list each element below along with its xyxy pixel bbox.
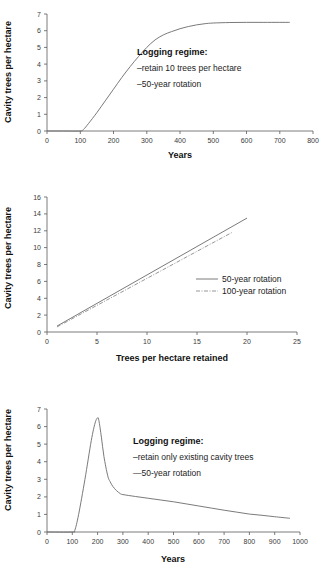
x-tick-label: 500 (207, 137, 219, 144)
annotation-heading: Logging regime: (133, 436, 204, 446)
data-series-line (47, 22, 290, 131)
y-tick-label: 1 (37, 111, 41, 118)
x-ticks: 0 100 200 300 400 500 600 700 800 900 10… (45, 532, 308, 545)
y-axis-title: Cavity trees per hectare (3, 21, 13, 123)
y-tick-label: 0 (37, 329, 41, 336)
chart-panel-1: Cavity trees per hectare 0 1 2 3 4 5 6 7 (0, 0, 323, 175)
x-ticks: 0 5 10 15 20 25 (45, 332, 301, 345)
panel-2-svg: Cavity trees per hectare 0 2 4 6 8 10 12… (0, 175, 323, 370)
annotation-block: Logging regime: –retain only existing ca… (133, 436, 253, 478)
y-axis-title: Cavity trees per hectare (3, 207, 13, 309)
x-tick-label: 200 (92, 538, 104, 545)
y-ticks: 0 2 4 6 8 10 12 14 16 (33, 194, 47, 336)
y-tick-label: 7 (37, 406, 41, 413)
x-tick-label: 700 (274, 137, 286, 144)
y-tick-label: 2 (37, 94, 41, 101)
y-tick-label: 3 (37, 77, 41, 84)
y-tick-label: 7 (37, 11, 41, 18)
panel-3-svg: Cavity trees per hectare 0 1 2 3 4 5 6 7 (0, 370, 323, 575)
y-tick-label: 2 (37, 312, 41, 319)
y-tick-label: 4 (37, 61, 41, 68)
y-tick-label: 2 (37, 493, 41, 500)
x-tick-label: 500 (168, 538, 180, 545)
annotation-heading: Logging regime: (137, 47, 208, 57)
y-tick-label: 4 (37, 295, 41, 302)
y-tick-label: 1 (37, 511, 41, 518)
y-ticks: 0 1 2 3 4 5 6 7 (37, 11, 47, 135)
x-tick-label: 0 (45, 538, 49, 545)
y-tick-label: 6 (37, 278, 41, 285)
y-tick-label: 0 (37, 128, 41, 135)
x-tick-label: 0 (45, 338, 49, 345)
annotation-block: Logging regime: –retain 10 trees per hec… (137, 47, 242, 89)
data-series-line-100yr (57, 232, 232, 327)
annotation-line-1: –retain only existing cavity trees (133, 452, 253, 462)
chart-panel-2: Cavity trees per hectare 0 2 4 6 8 10 12… (0, 175, 323, 370)
legend-label-100yr: 100-year rotation (222, 286, 287, 296)
x-ticks: 0 100 200 300 400 500 600 700 800 (45, 131, 319, 144)
legend: 50-year rotation 100-year rotation (196, 274, 287, 296)
x-tick-label: 20 (243, 338, 251, 345)
x-tick-label: 600 (241, 137, 253, 144)
x-tick-label: 400 (142, 538, 154, 545)
y-tick-label: 0 (37, 529, 41, 536)
legend-label-50yr: 50-year rotation (222, 274, 282, 284)
data-series-line-50yr (57, 218, 247, 326)
x-tick-label: 800 (307, 137, 319, 144)
x-tick-label: 200 (108, 137, 120, 144)
x-axis-title: Years (161, 554, 185, 564)
y-tick-label: 3 (37, 476, 41, 483)
annotation-line-2: –50-year rotation (137, 79, 202, 89)
y-axis-title: Cavity trees per hectare (3, 409, 13, 511)
x-tick-label: 300 (117, 538, 129, 545)
y-tick-label: 5 (37, 441, 41, 448)
x-tick-label: 800 (244, 538, 256, 545)
x-tick-label: 25 (293, 338, 301, 345)
x-tick-label: 0 (45, 137, 49, 144)
y-tick-label: 14 (33, 210, 41, 217)
y-tick-label: 12 (33, 227, 41, 234)
y-tick-label: 10 (33, 244, 41, 251)
x-tick-label: 300 (141, 137, 153, 144)
x-tick-label: 15 (193, 338, 201, 345)
x-axis-title: Years (168, 150, 192, 160)
y-tick-label: 6 (37, 27, 41, 34)
y-ticks: 0 1 2 3 4 5 6 7 (37, 406, 47, 536)
x-tick-label: 1000 (292, 538, 308, 545)
y-tick-label: 16 (33, 194, 41, 201)
x-axis-title: Trees per hectare retained (116, 353, 228, 363)
annotation-line-2: —50-year rotation (133, 468, 201, 478)
y-tick-label: 5 (37, 44, 41, 51)
x-tick-label: 10 (143, 338, 151, 345)
y-tick-label: 8 (37, 261, 41, 268)
x-tick-label: 400 (174, 137, 186, 144)
x-tick-label: 5 (95, 338, 99, 345)
x-tick-label: 100 (66, 538, 78, 545)
x-tick-label: 900 (269, 538, 281, 545)
y-tick-label: 4 (37, 458, 41, 465)
x-tick-label: 600 (193, 538, 205, 545)
x-tick-label: 100 (74, 137, 86, 144)
y-tick-label: 6 (37, 423, 41, 430)
annotation-line-1: –retain 10 trees per hectare (137, 63, 242, 73)
chart-panel-3: Cavity trees per hectare 0 1 2 3 4 5 6 7 (0, 370, 323, 575)
x-tick-label: 700 (218, 538, 230, 545)
panel-1-svg: Cavity trees per hectare 0 1 2 3 4 5 6 7 (0, 0, 323, 175)
